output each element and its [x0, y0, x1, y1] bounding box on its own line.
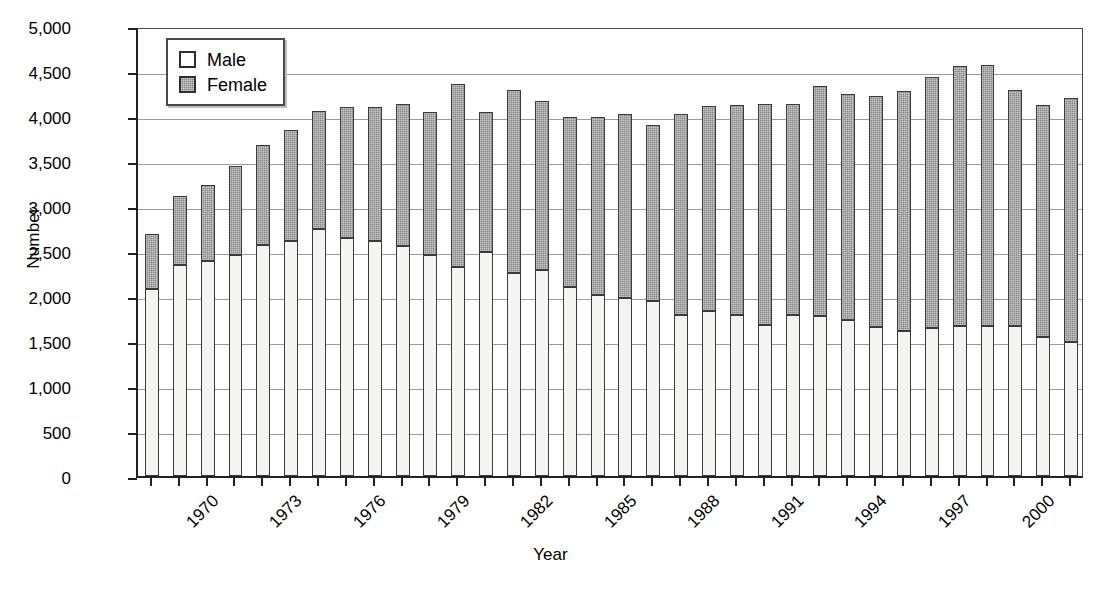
- x-axis-tick-mark: [261, 478, 263, 486]
- gridline: [138, 254, 1082, 255]
- bar-2001: [1008, 90, 1022, 476]
- x-axis-tick-mark: [986, 478, 988, 486]
- bar-segment-male: [145, 289, 159, 476]
- y-axis-tick-mark: [128, 478, 137, 480]
- bar-segment-male: [507, 273, 521, 476]
- bar-1987: [618, 114, 632, 476]
- x-axis-tick-mark: [707, 478, 709, 486]
- x-axis-tick-label: 1982: [517, 492, 556, 531]
- bar-1999: [953, 66, 967, 476]
- legend-label-female: Female: [207, 76, 267, 94]
- bar-1970: [145, 234, 159, 476]
- bar-segment-female: [256, 145, 270, 245]
- legend-item-female: Female: [179, 72, 267, 97]
- bar-segment-male: [1036, 337, 1050, 476]
- bar-1991: [730, 105, 744, 476]
- bar-segment-female: [145, 234, 159, 289]
- y-axis-tick-label: 3,500: [0, 155, 71, 172]
- x-axis-tick-label: 1997: [935, 492, 974, 531]
- bar-1985: [563, 117, 577, 476]
- x-axis-tick-mark: [345, 478, 347, 486]
- x-axis-tick-mark: [456, 478, 458, 486]
- x-axis-tick-mark: [623, 478, 625, 486]
- x-axis-tick-mark: [596, 478, 598, 486]
- bar-segment-female: [591, 117, 605, 295]
- x-axis-tick-mark: [679, 478, 681, 486]
- bar-segment-female: [479, 112, 493, 252]
- x-axis-tick-mark: [150, 478, 152, 486]
- x-axis-tick-mark: [818, 478, 820, 486]
- y-axis-tick-label: 2,500: [0, 245, 71, 262]
- bar-1990: [702, 106, 716, 476]
- bar-1995: [841, 94, 855, 476]
- bar-segment-male: [340, 238, 354, 477]
- y-axis-tick-label: 1,000: [0, 380, 71, 397]
- bar-segment-female: [396, 104, 410, 245]
- bar-1978: [368, 107, 382, 476]
- bar-segment-male: [646, 301, 660, 476]
- x-axis-tick-label: 1988: [684, 492, 723, 531]
- x-axis-tick-mark: [540, 478, 542, 486]
- y-axis-tick-label: 4,000: [0, 110, 71, 127]
- bar-segment-female: [953, 66, 967, 326]
- bar-segment-male: [284, 241, 298, 476]
- bar-segment-male: [535, 270, 549, 476]
- legend-swatch-male-icon: [179, 51, 196, 68]
- bar-segment-male: [813, 316, 827, 476]
- x-axis-tick-label: 1991: [768, 492, 807, 531]
- bar-1971: [173, 196, 187, 476]
- bar-segment-male: [925, 328, 939, 477]
- bar-segment-female: [1008, 90, 1022, 326]
- bar-1972: [201, 185, 215, 476]
- bar-segment-female: [1064, 98, 1078, 342]
- bar-segment-male: [730, 315, 744, 476]
- x-axis-tick-mark: [484, 478, 486, 486]
- y-axis-tick-label: 500: [0, 425, 71, 442]
- bar-segment-female: [229, 166, 243, 255]
- bar-segment-male: [786, 315, 800, 476]
- bar-segment-female: [451, 84, 465, 268]
- bar-1974: [256, 145, 270, 476]
- x-axis-tick-mark: [791, 478, 793, 486]
- bar-1994: [813, 86, 827, 476]
- chart-legend: Male Female: [166, 38, 285, 106]
- bar-segment-male: [1008, 326, 1022, 476]
- gridline: [138, 209, 1082, 210]
- x-axis-tick-mark: [289, 478, 291, 486]
- x-axis-tick-mark: [568, 478, 570, 486]
- x-axis-tick-mark: [178, 478, 180, 486]
- bar-segment-female: [1036, 105, 1050, 337]
- x-axis-tick-mark: [651, 478, 653, 486]
- bar-segment-male: [312, 229, 326, 476]
- bar-segment-male: [618, 298, 632, 476]
- bar-1997: [897, 91, 911, 476]
- bar-2000: [981, 65, 995, 476]
- x-axis-tick-mark: [735, 478, 737, 486]
- bar-segment-female: [730, 105, 744, 315]
- bar-segment-female: [786, 104, 800, 315]
- bar-segment-female: [813, 86, 827, 316]
- x-axis-tick-mark: [763, 478, 765, 486]
- x-axis-tick-mark: [874, 478, 876, 486]
- gridline: [138, 299, 1082, 300]
- x-axis-tick-label: 1970: [183, 492, 222, 531]
- x-axis-tick-mark: [233, 478, 235, 486]
- bar-1979: [396, 104, 410, 476]
- gridline: [138, 164, 1082, 165]
- bar-segment-male: [1064, 342, 1078, 476]
- legend-label-male: Male: [207, 51, 246, 69]
- bar-segment-female: [201, 185, 215, 261]
- bar-2003: [1064, 98, 1078, 476]
- bar-segment-female: [897, 91, 911, 331]
- bar-segment-female: [312, 111, 326, 230]
- x-axis-tick-mark: [902, 478, 904, 486]
- y-axis-tick-label: 0: [0, 470, 71, 487]
- x-axis-tick-mark: [512, 478, 514, 486]
- x-axis-tick-label: 2000: [1019, 492, 1058, 531]
- bar-segment-male: [674, 315, 688, 476]
- x-axis-tick-mark: [1013, 478, 1015, 486]
- x-axis-title: Year: [0, 545, 1101, 565]
- bar-segment-male: [256, 245, 270, 476]
- x-axis-tick-label: 1985: [601, 492, 640, 531]
- bar-1981: [451, 84, 465, 476]
